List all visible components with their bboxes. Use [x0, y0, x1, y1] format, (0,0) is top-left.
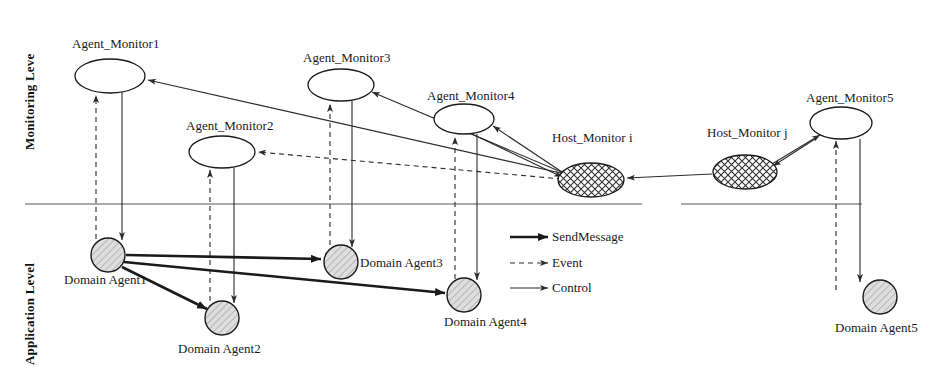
e-am4-hmi-control	[472, 134, 562, 177]
monitor-label-am1: Agent_Monitor1	[72, 36, 159, 52]
monitor-node-hmj	[713, 155, 777, 189]
agent-label-da4: Domain Agent4	[444, 314, 527, 330]
agent-label-da2: Domain Agent2	[178, 341, 261, 357]
monitor-label-am4: Agent_Monitor4	[427, 88, 514, 104]
legend-sendmessage-label: SendMessage	[552, 229, 624, 245]
agent-node-da2	[205, 301, 239, 335]
legend-control-label: Control	[552, 280, 592, 296]
legend-event-label: Event	[552, 255, 582, 271]
agent-label-da1: Domain Agent1	[64, 272, 147, 288]
monitor-label-hmi: Host_Monitor i	[552, 130, 633, 146]
monitor-label-hmj: Host_Monitor j	[707, 125, 788, 141]
legend-lines-layer	[510, 237, 548, 288]
agent-label-da3: Domain Agent3	[360, 255, 443, 271]
level-label-monitoring: Monitoring Leve	[22, 53, 38, 150]
level-label-application: Application Level	[22, 263, 38, 365]
e-am5-hmj-control	[773, 137, 818, 166]
e-hmi-am2-event	[258, 152, 562, 179]
monitor-node-hmi	[558, 163, 624, 197]
monitor-node-am4	[434, 104, 494, 134]
monitor-label-am2: Agent_Monitor2	[186, 118, 273, 134]
monitor-label-am5: Agent_Monitor5	[806, 90, 893, 106]
monitor-node-am2	[189, 136, 255, 168]
agent-node-da3	[324, 245, 358, 279]
agent-node-da1	[91, 238, 125, 272]
agent-node-da4	[447, 278, 481, 312]
monitor-node-am3	[308, 69, 374, 101]
monitor-node-am5	[810, 107, 872, 139]
e-da1-da3-message	[126, 255, 321, 259]
diagram-canvas: Monitoring Leve Application Level Agent_…	[0, 0, 947, 385]
e-hmj-hmi-control	[627, 174, 712, 178]
monitor-node-am1	[75, 59, 145, 93]
agent-label-da5: Domain Agent5	[835, 320, 918, 336]
agent-node-da5	[863, 280, 897, 314]
monitor-label-am3: Agent_Monitor3	[303, 50, 390, 66]
